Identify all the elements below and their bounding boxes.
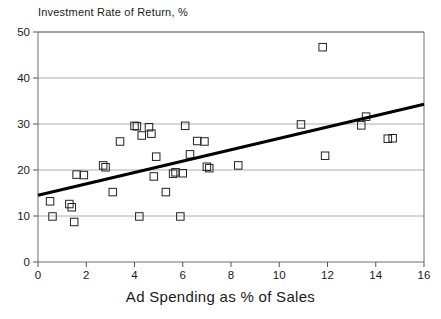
trendline-group bbox=[38, 104, 424, 195]
scatter-chart: Investment Rate of Return, % 01020304050… bbox=[0, 0, 441, 319]
data-point-marker bbox=[358, 122, 366, 130]
data-point-marker bbox=[162, 188, 170, 196]
data-point-marker bbox=[181, 122, 189, 130]
data-point-marker bbox=[80, 171, 88, 179]
data-point-marker bbox=[46, 198, 54, 206]
x-tick-label: 6 bbox=[180, 269, 186, 281]
data-point-marker bbox=[384, 135, 392, 143]
data-point-marker bbox=[179, 169, 187, 177]
data-point-marker bbox=[321, 152, 329, 160]
data-point-marker bbox=[150, 173, 158, 181]
data-point-marker bbox=[201, 138, 209, 146]
y-tick-label: 0 bbox=[24, 256, 30, 268]
x-tick-label: 0 bbox=[35, 269, 41, 281]
plot-frame bbox=[38, 32, 424, 262]
y-tick-label: 40 bbox=[17, 72, 30, 84]
data-point-marker bbox=[389, 135, 397, 143]
data-point-marker bbox=[193, 137, 201, 145]
axis-tick-labels-group: 010203040500246810121416 bbox=[17, 26, 430, 281]
y-tick-label: 30 bbox=[17, 118, 30, 130]
data-point-marker bbox=[109, 188, 117, 196]
data-point-marker bbox=[68, 204, 76, 212]
data-point-marker bbox=[136, 213, 144, 221]
data-point-marker bbox=[152, 153, 160, 161]
y-tick-label: 20 bbox=[17, 164, 30, 176]
x-tick-label: 14 bbox=[369, 269, 382, 281]
data-points-group bbox=[46, 43, 396, 225]
x-tick-label: 2 bbox=[83, 269, 89, 281]
trendline bbox=[38, 104, 424, 195]
x-tick-label: 16 bbox=[418, 269, 431, 281]
data-point-marker bbox=[66, 200, 74, 208]
plot-area: 010203040500246810121416 bbox=[0, 0, 441, 319]
data-point-marker bbox=[138, 132, 146, 140]
x-tick-label: 12 bbox=[321, 269, 334, 281]
x-tick-label: 10 bbox=[273, 269, 286, 281]
data-point-marker bbox=[186, 151, 194, 159]
y-tick-label: 10 bbox=[17, 210, 30, 222]
data-point-marker bbox=[73, 171, 81, 179]
data-point-marker bbox=[234, 162, 242, 170]
x-tick-label: 8 bbox=[228, 269, 234, 281]
data-point-marker bbox=[177, 213, 185, 221]
data-point-marker bbox=[116, 138, 124, 146]
data-point-marker bbox=[99, 162, 107, 170]
x-tick-label: 4 bbox=[131, 269, 138, 281]
x-axis-label: Ad Spending as % of Sales bbox=[0, 288, 441, 305]
gridlines-group bbox=[38, 32, 424, 216]
data-point-marker bbox=[319, 43, 327, 51]
data-point-marker bbox=[70, 218, 78, 226]
data-point-marker bbox=[297, 121, 305, 128]
data-point-marker bbox=[131, 122, 139, 130]
data-point-marker bbox=[49, 213, 57, 221]
y-tick-label: 50 bbox=[17, 26, 30, 38]
